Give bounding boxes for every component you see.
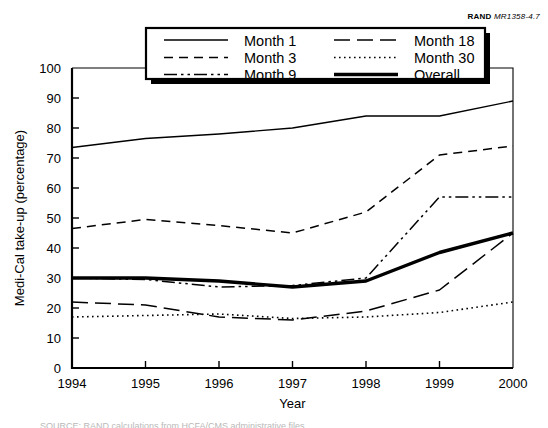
y-tick-label: 80 bbox=[47, 121, 61, 136]
y-tick-label: 50 bbox=[47, 211, 61, 226]
y-axis-tick-labels: 0102030405060708090100 bbox=[39, 61, 61, 376]
y-tick-label: 90 bbox=[47, 91, 61, 106]
series-line-month-30 bbox=[72, 302, 513, 319]
y-tick-label: 10 bbox=[47, 331, 61, 346]
legend-label-month-1: Month 1 bbox=[244, 33, 296, 49]
legend-label-month-3: Month 3 bbox=[244, 50, 296, 66]
chart-legend: Month 1Month 3Month 9Month 18Month 30Ove… bbox=[146, 28, 490, 84]
x-tick-label: 1999 bbox=[425, 376, 454, 391]
x-tick-label: 2000 bbox=[499, 376, 528, 391]
x-tick-label: 1998 bbox=[352, 376, 381, 391]
x-tick-label: 1997 bbox=[278, 376, 307, 391]
series-line-month-3 bbox=[72, 146, 513, 233]
plot-frame bbox=[72, 68, 513, 368]
y-axis-title: Medi-Cal take-up (percentage) bbox=[12, 130, 27, 306]
y-tick-label: 0 bbox=[54, 361, 61, 376]
y-tick-label: 40 bbox=[47, 241, 61, 256]
legend-label-month-30: Month 30 bbox=[414, 50, 474, 66]
legend-label-month-18: Month 18 bbox=[414, 33, 474, 49]
y-tick-label: 30 bbox=[47, 271, 61, 286]
y-tick-label: 100 bbox=[39, 61, 61, 76]
x-tick-label: 1996 bbox=[205, 376, 234, 391]
axis-ticks bbox=[72, 98, 440, 368]
y-tick-label: 20 bbox=[47, 301, 61, 316]
x-axis-title: Year bbox=[279, 396, 306, 411]
series-line-overall bbox=[72, 233, 513, 287]
y-tick-label: 70 bbox=[47, 151, 61, 166]
legend-label-month-9: Month 9 bbox=[244, 67, 296, 83]
figure-caption: SOURCE: RAND calculations from HCFA/CMS … bbox=[40, 419, 510, 428]
series-line-month-9 bbox=[72, 197, 513, 287]
legend-label-overall: Overall bbox=[414, 67, 460, 83]
line-chart: 0102030405060708090100 19941995199619971… bbox=[0, 0, 548, 428]
y-tick-label: 60 bbox=[47, 181, 61, 196]
x-tick-label: 1995 bbox=[131, 376, 160, 391]
figure-container: RAND MR1358-4.7 0102030405060708090100 1… bbox=[0, 0, 548, 428]
x-tick-label: 1994 bbox=[58, 376, 87, 391]
data-series-group bbox=[72, 101, 513, 320]
series-line-month-1 bbox=[72, 101, 513, 148]
x-axis-tick-labels: 1994199519961997199819992000 bbox=[58, 376, 528, 391]
